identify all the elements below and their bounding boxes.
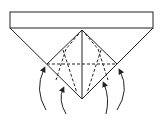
arrow-outer-left: [39, 69, 46, 110]
arrow-outer-right: [117, 71, 124, 110]
arrow-inner-left: [61, 89, 66, 114]
origami-diagram: [0, 0, 160, 120]
arrow-inner-right: [104, 84, 108, 114]
triangle-left-edge: [10, 28, 82, 99]
diamond-upper-left: [47, 30, 82, 64]
diamond-upper-right: [82, 30, 117, 64]
top-band: [10, 12, 153, 28]
